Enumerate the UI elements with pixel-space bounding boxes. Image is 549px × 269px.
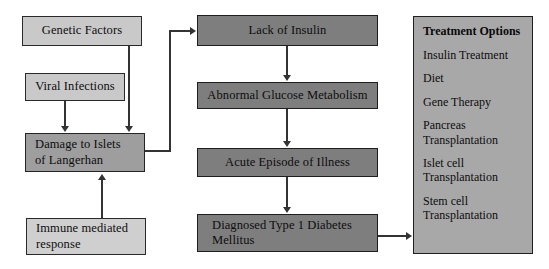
treatment-option-stem-cell-transplantation: Stem cell Transplantation [423,194,523,223]
node-genetic-factors: Genetic Factors [22,16,142,46]
arrowhead-glucose-to-acute [283,141,291,147]
arrowhead-diagnosed-to-treatment [406,232,412,240]
arrowhead-viral-to-damage [61,126,69,132]
treatment-options-panel: Treatment Options Insulin Treatment Diet… [413,16,533,254]
connector-diagnosed-to-treatment [378,235,408,237]
node-genetic-factors-label: Genetic Factors [42,23,122,38]
node-acute-episode-of-illness-label: Acute Episode of Illness [225,155,350,170]
node-abnormal-glucose-metabolism: Abnormal Glucose Metabolism [197,82,378,109]
arrowhead-acute-to-diagnosed [283,207,291,213]
connector-acute-to-diagnosed [286,177,288,208]
arrowhead-damage-to-insulin [190,27,196,35]
node-abnormal-glucose-metabolism-label: Abnormal Glucose Metabolism [207,88,367,103]
node-diagnosed-type-1-diabetes: Diagnosed Type 1 Diabetes Mellitus [197,214,378,252]
node-damage-to-islets-label: Damage to Islets of Langerhan [35,137,121,168]
diagram-canvas: Genetic Factors Viral Infections Damage … [0,0,549,269]
connector-genetic-to-damage [128,46,130,127]
treatment-options-title: Treatment Options [423,24,523,39]
treatment-option-insulin-treatment: Insulin Treatment [423,48,523,62]
treatment-option-islet-cell-transplantation: Islet cell Transplantation [423,156,523,185]
node-viral-infections-label: Viral Infections [35,79,115,94]
node-immune-mediated-response-label: Immune mediated response [36,221,128,252]
connector-damage-up-segment [169,30,171,152]
treatment-option-pancreas-transplantation: Pancreas Transplantation [423,118,523,147]
arrowhead-genetic-to-damage [125,126,133,132]
connector-viral-to-damage [64,101,66,127]
connector-glucose-to-acute [286,109,288,142]
node-lack-of-insulin-label: Lack of Insulin [249,23,327,38]
connector-damage-into-insulin [169,30,191,32]
treatment-option-diet: Diet [423,71,523,85]
node-damage-to-islets: Damage to Islets of Langerhan [25,133,145,172]
node-diagnosed-type-1-diabetes-label: Diagnosed Type 1 Diabetes Mellitus [212,218,352,249]
arrowhead-immune-to-damage [98,174,106,180]
node-immune-mediated-response: Immune mediated response [26,218,146,255]
arrowhead-insulin-to-glucose [283,75,291,81]
node-viral-infections: Viral Infections [25,73,125,101]
connector-damage-right-segment [145,150,171,152]
node-lack-of-insulin: Lack of Insulin [197,15,378,46]
connector-immune-to-damage [101,180,103,218]
treatment-option-gene-therapy: Gene Therapy [423,95,523,109]
connector-insulin-to-glucose [286,46,288,76]
node-acute-episode-of-illness: Acute Episode of Illness [197,148,378,177]
